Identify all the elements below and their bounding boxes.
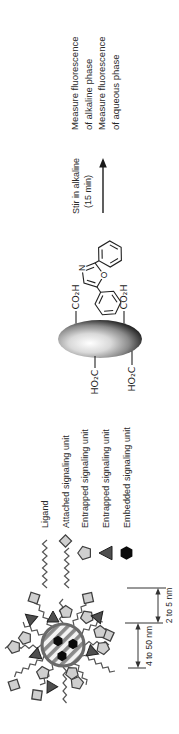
nitrogen-atom-label: N [77, 265, 87, 271]
result-line-2: of alkaline phase [82, 37, 96, 130]
result-line-1: Measure fluorescence [68, 37, 82, 130]
ho2c-label: HO₂C [126, 366, 137, 391]
result-text-block: Measure fluorescence of alkaline phase M… [68, 37, 122, 130]
reaction-arrow [99, 158, 107, 213]
legend-item-embedded-unit: Embedded signaling unit [117, 414, 137, 590]
legend-label: Attached signaling unit [61, 435, 71, 528]
legend-item-entrapped-triangle: Entrapped signaling unit [96, 414, 116, 590]
legend-item-attached-unit: Attached signaling unit [56, 414, 76, 590]
nanoparticle-cluster [5, 592, 115, 703]
zigzag-line-icon [35, 528, 55, 590]
black-hexagon-icon [117, 528, 137, 590]
core-dimension-label: 4 to 50 nm [144, 626, 154, 666]
legend-label: Entrapped signaling unit [101, 429, 111, 528]
legend-label: Entrapped signaling unit [80, 429, 90, 528]
triangle-icon [96, 528, 116, 590]
step-line-1: Stir in alkaline [70, 158, 82, 214]
figure-scheme: 4 to 50 nm 2 to 5 nm CO₂H CO₂H HO₂C HO₂C [0, 0, 179, 734]
phenyl-ring-right [93, 238, 127, 271]
zigzag-with-diamond-icon [56, 528, 76, 590]
legend-label: Ligand [40, 500, 50, 528]
arrowhead [99, 158, 107, 168]
oxygen-atom-label: O [99, 271, 109, 278]
particle-ellipse [58, 320, 142, 358]
legend-item-ligand: Ligand [35, 414, 55, 590]
pentagon-icon [75, 528, 95, 590]
legend-item-entrapped-pentagon: Entrapped signaling unit [75, 414, 95, 590]
co2h-label: CO₂H [118, 284, 129, 309]
step-line-2: (15 min) [82, 158, 94, 214]
arrow-step-label: Stir in alkaline (15 min) [70, 158, 94, 214]
legend-label: Embedded signaling unit [122, 427, 132, 528]
result-line-4: of aqueous phase [109, 37, 123, 130]
shell-dimension-label: 2 to 5 nm [164, 588, 174, 623]
co2h-label: CO₂H [70, 284, 81, 309]
rotated-figure-canvas: 4 to 50 nm 2 to 5 nm CO₂H CO₂H HO₂C HO₂C [0, 0, 179, 734]
ho2c-label: HO₂C [89, 369, 100, 394]
legend: Ligand Attached signaling unit Entrapped… [0, 414, 179, 590]
result-line-3: Measure fluorescence [95, 37, 109, 130]
